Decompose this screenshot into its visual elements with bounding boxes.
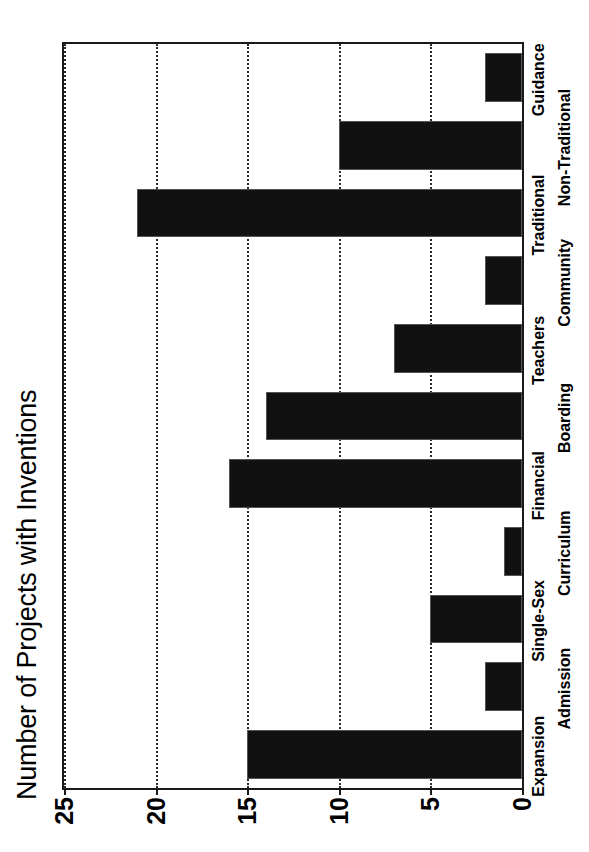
category-axis-tick-label: Expansion bbox=[530, 716, 548, 797]
value-axis-tick-label: 0 bbox=[508, 797, 537, 811]
category-axis-tick-label: Financial bbox=[530, 451, 548, 520]
bar bbox=[137, 189, 522, 238]
bar bbox=[485, 53, 522, 102]
category-axis-tick-label: Curriculum bbox=[556, 511, 574, 596]
category-axis-tick-label: Teachers bbox=[530, 316, 548, 385]
bar bbox=[430, 595, 522, 644]
bar bbox=[504, 527, 522, 576]
bar bbox=[266, 392, 522, 441]
category-axis-tick-label: Community bbox=[556, 239, 574, 327]
value-axis-tick-mark bbox=[522, 788, 524, 795]
value-axis-tick-mark bbox=[156, 788, 158, 795]
bar bbox=[394, 324, 522, 373]
value-axis-tick-mark bbox=[247, 788, 249, 795]
value-axis-tick-mark bbox=[430, 788, 432, 795]
value-axis-tick-label: 5 bbox=[416, 797, 445, 811]
category-axis-tick-label: Traditional bbox=[530, 175, 548, 256]
chart-title: Number of Projects with Inventions bbox=[12, 390, 43, 800]
bar bbox=[485, 662, 522, 711]
category-axis-tick-label: Boarding bbox=[556, 383, 574, 453]
bars-layer bbox=[64, 44, 522, 788]
category-axis-labels: ExpansionAdmissionSingle-SexCurriculumFi… bbox=[528, 42, 588, 790]
value-axis-tick-label: 25 bbox=[50, 797, 79, 825]
bar bbox=[339, 121, 522, 170]
value-axis-tick-mark bbox=[64, 788, 66, 795]
chart-page: Number of Projects with Inventions 05101… bbox=[0, 0, 589, 852]
chart-figure: Number of Projects with Inventions 05101… bbox=[0, 0, 589, 852]
value-axis-tick-label: 15 bbox=[233, 797, 262, 825]
bar bbox=[229, 459, 522, 508]
category-axis-tick-label: Guidance bbox=[530, 43, 548, 116]
category-axis-tick-label: Admission bbox=[556, 648, 574, 730]
category-axis-tick-label: Non-Traditional bbox=[556, 89, 574, 206]
category-axis-tick-label: Single-Sex bbox=[530, 580, 548, 662]
bar bbox=[485, 256, 522, 305]
value-axis-tick-label: 20 bbox=[141, 797, 170, 825]
bar bbox=[247, 730, 522, 779]
value-axis-tick-label: 10 bbox=[324, 797, 353, 825]
plot-area: 0510152025 bbox=[62, 42, 524, 790]
value-axis-tick-mark bbox=[339, 788, 341, 795]
rotated-figure-wrapper: Number of Projects with Inventions 05101… bbox=[0, 0, 589, 852]
